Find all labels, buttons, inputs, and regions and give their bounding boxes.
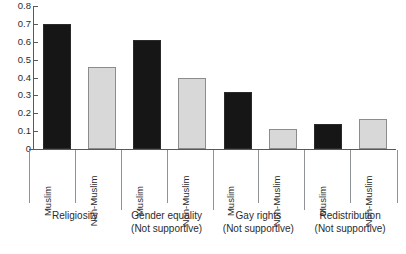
y-axis-tick-label: 0.1 bbox=[18, 125, 31, 136]
bar bbox=[269, 129, 297, 149]
group-label-line-1: Redistribution bbox=[304, 210, 396, 223]
x-axis-group-label: Gay rights(Not supportive) bbox=[213, 203, 305, 247]
group-label-line-1: Religiosity bbox=[29, 210, 121, 223]
bar bbox=[359, 119, 387, 149]
x-axis-group-label-band: ReligiosityGender equality(Not supportiv… bbox=[29, 203, 396, 251]
group-separator bbox=[213, 150, 214, 210]
x-axis-tick-label-cell: Muslim bbox=[29, 150, 76, 203]
bar bbox=[224, 92, 252, 149]
y-axis-tick-label: 0.5 bbox=[18, 54, 31, 65]
x-axis-group-label: Religiosity bbox=[29, 203, 121, 247]
y-axis-tick-label: 0.7 bbox=[18, 18, 31, 29]
x-axis-tick-label-cell: Non-Muslim bbox=[350, 150, 398, 203]
y-axis-tick-label: 0.3 bbox=[18, 89, 31, 100]
x-axis-tick-label-cell: Non-Muslim bbox=[75, 150, 122, 203]
y-axis-tick-label: 0.8 bbox=[18, 0, 31, 11]
group-label-line-1: Gender equality bbox=[121, 210, 213, 223]
y-axis-tick-label: 0.2 bbox=[18, 107, 31, 118]
bar bbox=[88, 67, 116, 149]
group-separator bbox=[304, 150, 305, 210]
group-label-line-2: (Not supportive) bbox=[213, 223, 305, 236]
x-axis-tick-label-cell: Muslim bbox=[213, 150, 260, 203]
x-axis-group-label: Gender equality(Not supportive) bbox=[121, 203, 213, 247]
plot-area bbox=[34, 6, 396, 149]
y-axis-tick-label: 0.6 bbox=[18, 36, 31, 47]
bar bbox=[314, 124, 342, 149]
y-axis-tick-label: 0.4 bbox=[18, 72, 31, 83]
group-label-line-2: (Not supportive) bbox=[304, 223, 396, 236]
group-separator bbox=[121, 150, 122, 210]
bar bbox=[43, 24, 71, 149]
x-axis-tick-label-cell: Muslim bbox=[304, 150, 351, 203]
x-axis-tick-label-cell: Non-Muslim bbox=[167, 150, 214, 203]
group-label-line-2: (Not supportive) bbox=[121, 223, 213, 236]
bar bbox=[178, 78, 206, 150]
bar-chart: 0.80.70.60.50.40.30.20.10 MuslimNon-Musl… bbox=[0, 0, 406, 254]
x-axis-tick-label-cell: Muslim bbox=[121, 150, 168, 203]
x-axis-group-label: Redistribution(Not supportive) bbox=[304, 203, 396, 247]
x-axis-tick-label-cell: Non-Muslim bbox=[258, 150, 305, 203]
bar bbox=[133, 40, 161, 149]
group-label-line-1: Gay rights bbox=[213, 210, 305, 223]
